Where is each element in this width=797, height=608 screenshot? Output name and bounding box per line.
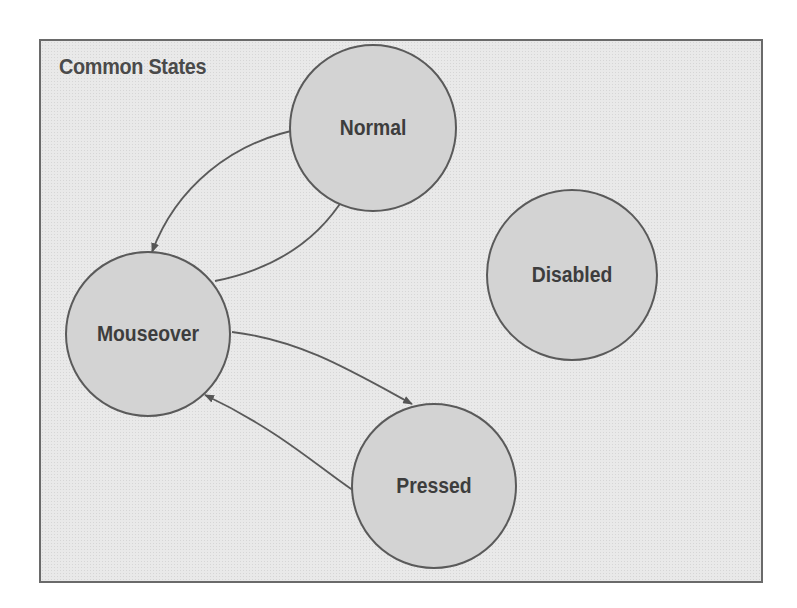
node-disabled-label: Disabled <box>532 262 613 288</box>
state-diagram <box>0 0 797 608</box>
node-normal-label: Normal <box>340 115 407 141</box>
node-pressed-label: Pressed <box>396 473 471 499</box>
edge-mouseover-to-pressed <box>232 332 412 404</box>
node-mouseover-label: Mouseover <box>97 321 199 347</box>
edge-normal-to-mouseover <box>152 128 307 252</box>
edge-mouseover-to-normal <box>215 196 345 281</box>
